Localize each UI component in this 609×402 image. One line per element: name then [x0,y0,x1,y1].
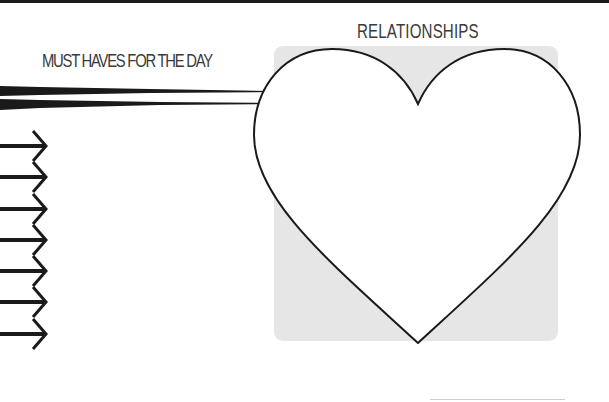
arrow-list [0,131,46,349]
right-arrow-icon [0,194,46,224]
right-arrow-icon [0,319,46,349]
brush-stroke-icon [0,86,286,110]
right-arrow-icon [0,225,46,255]
right-arrow-icon [0,256,46,286]
right-arrow-icon [0,287,46,317]
bottom-divider-line [430,399,565,400]
right-arrow-icon [0,131,46,161]
right-arrow-icon [0,162,46,192]
